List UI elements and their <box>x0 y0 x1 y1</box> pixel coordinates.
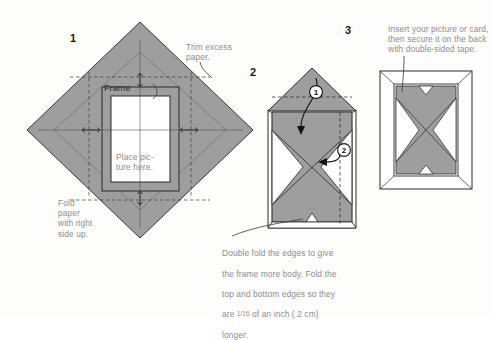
label-fold-paper-right-side-up: Fold paper with right side up. <box>58 198 114 239</box>
caption-line-1: Double fold the edges to give <box>222 248 333 258</box>
step-number-1: 1 <box>70 32 76 44</box>
caption-line-4: are <box>222 310 237 320</box>
step-number-3: 3 <box>345 24 351 36</box>
caption-line-3: top and bottom edges so they <box>222 289 335 299</box>
caption-line-5: of an inch (.2 cm) <box>250 310 319 320</box>
caption-double-fold-edges: Double fold the edges to give the frame … <box>222 238 400 340</box>
label-frame: Frame <box>104 83 131 93</box>
label-place-picture-here: Place pic- ture here. <box>116 152 164 172</box>
caption-insert-picture: Insert your picture or card, then secure… <box>388 24 492 55</box>
step-number-2: 2 <box>250 66 256 78</box>
caption-line-2: the frame more body. Fold the <box>222 269 336 279</box>
label-trim-excess-paper: Trim excess paper. <box>186 42 258 62</box>
caption-fraction: 1/16 <box>237 310 250 317</box>
caption-line-6: longer. <box>222 330 248 340</box>
